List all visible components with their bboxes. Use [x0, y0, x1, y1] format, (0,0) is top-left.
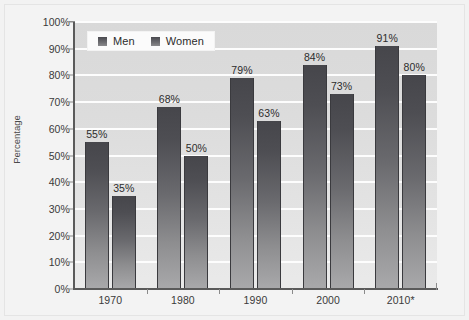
plot-area: [74, 22, 437, 289]
bar: [303, 65, 327, 289]
y-tick-label: 10%: [4, 256, 70, 268]
bar: [184, 156, 208, 290]
bar: [85, 142, 109, 289]
bar: [157, 107, 181, 289]
bar-value-label: 84%: [304, 51, 325, 63]
bar-value-label: 73%: [331, 80, 352, 92]
bar: [402, 75, 426, 289]
x-tick-label: 2000: [293, 294, 363, 306]
chart-legend: MenWomen: [87, 31, 215, 51]
y-axis-ticks: 0%10%20%30%40%50%60%70%80%90%100%: [0, 0, 70, 320]
x-axis-line: [73, 288, 438, 290]
x-tick-label: 1990: [221, 294, 291, 306]
y-tick-label: 20%: [4, 230, 70, 242]
bar-value-label: 68%: [159, 93, 180, 105]
x-tick-mark: [219, 289, 220, 294]
bar: [112, 196, 136, 289]
x-tick-mark: [364, 289, 365, 294]
bar: [230, 78, 254, 289]
bar: [330, 94, 354, 289]
y-tick-label: 60%: [4, 123, 70, 135]
x-tick-label: 1970: [75, 294, 145, 306]
y-tick-label: 90%: [4, 43, 70, 55]
y-axis-top-cap: [69, 21, 75, 22]
y-tick-label: 80%: [4, 69, 70, 81]
bar-value-label: 50%: [186, 142, 207, 154]
y-tick-label: 40%: [4, 176, 70, 188]
bar-value-label: 55%: [86, 128, 107, 140]
bar-value-label: 91%: [377, 32, 398, 44]
legend-swatch-icon: [98, 37, 107, 46]
legend-swatch-icon: [151, 37, 160, 46]
y-tick-label: 100%: [4, 16, 70, 28]
bar-value-label: 79%: [231, 64, 252, 76]
x-axis-right-cap: [436, 283, 437, 290]
legend-label: Women: [166, 35, 204, 47]
x-tick-label: 1980: [148, 294, 218, 306]
y-tick-label: 0%: [4, 283, 70, 295]
chart-screenshot: Percentage 0%10%20%30%40%50%60%70%80%90%…: [0, 0, 469, 320]
bar-value-label: 63%: [258, 107, 279, 119]
bar-value-label: 80%: [404, 61, 425, 73]
gridline: [74, 21, 437, 23]
bar: [257, 121, 281, 289]
y-tick-label: 30%: [4, 203, 70, 215]
legend-entry: Men: [98, 35, 135, 47]
x-tick-label: 2010*: [366, 294, 436, 306]
x-tick-mark: [292, 289, 293, 294]
legend-entry: Women: [151, 35, 204, 47]
y-tick-label: 50%: [4, 150, 70, 162]
y-axis-line: [73, 21, 75, 290]
bar-value-label: 35%: [113, 182, 134, 194]
x-tick-mark: [147, 289, 148, 294]
y-tick-label: 70%: [4, 96, 70, 108]
legend-label: Men: [113, 35, 135, 47]
bar: [375, 46, 399, 289]
